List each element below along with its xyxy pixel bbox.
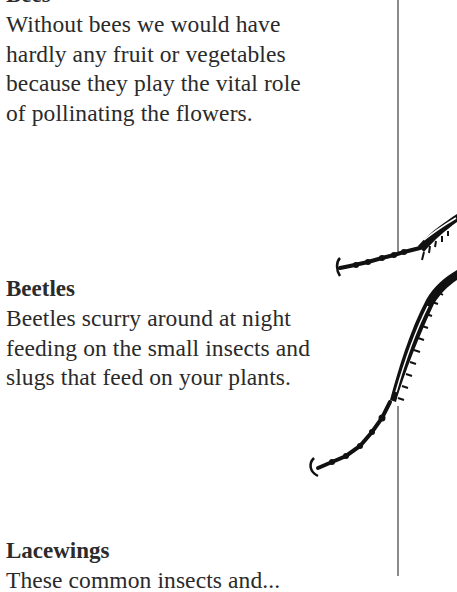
section-heading-lacewings: Lacewings <box>6 536 401 566</box>
text-line: because they play the vital role <box>6 69 401 99</box>
text-line: Without bees we would have <box>6 10 401 40</box>
section-body-bees: Without bees we would have hardly any fr… <box>6 10 401 128</box>
section-bees: Bees Without bees we would have hardly a… <box>6 0 401 128</box>
section-heading-bees: Bees <box>6 0 401 10</box>
section-body-lacewings: These common insects and... <box>6 566 401 592</box>
beetle-legs-illustration-icon <box>300 190 457 490</box>
section-lacewings: Lacewings These common insects and... <box>6 536 401 592</box>
text-line: of pollinating the flowers. <box>6 99 401 129</box>
text-line: These common insects and... <box>6 566 401 592</box>
text-line: hardly any fruit or vegetables <box>6 40 401 70</box>
